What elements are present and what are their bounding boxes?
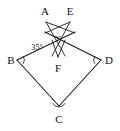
geometry-canvas: A E B D C F 35°	[0, 0, 120, 131]
vertex-label-f: F	[55, 62, 61, 74]
vertex-label-c: C	[55, 113, 62, 125]
segment-b-to-e-side	[17, 32, 75, 60]
segment-c-d	[59, 60, 101, 106]
vertex-label-b: B	[7, 54, 14, 66]
angle-measure-label: 35°	[31, 43, 42, 52]
segment-a-to-right-tip	[46, 22, 75, 33]
geometry-figure: A E B D C F 35°	[0, 0, 120, 131]
vertex-label-a: A	[41, 5, 49, 17]
segment-d-to-a-side	[45, 32, 101, 60]
vertex-label-e: E	[67, 5, 74, 17]
segment-b-c	[17, 60, 59, 106]
vertex-label-d: D	[105, 54, 113, 66]
angle-arc-35	[55, 36, 61, 37]
segment-e-to-f	[52, 22, 70, 56]
